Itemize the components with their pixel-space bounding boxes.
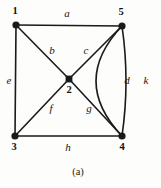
edge-label-a: a xyxy=(64,8,70,19)
vertex-label-1: 1 xyxy=(12,6,17,17)
graph-diagram xyxy=(0,0,161,188)
figure-caption: (a) xyxy=(72,167,84,178)
edge-label-e: e xyxy=(7,75,12,86)
vertex-label-3: 3 xyxy=(11,142,16,153)
edge-a xyxy=(16,25,122,26)
vertex-5 xyxy=(118,22,125,29)
vertex-label-2: 2 xyxy=(66,85,71,96)
vertex-label-5: 5 xyxy=(118,7,123,18)
figure-container: abcefghdk 15234 (a) xyxy=(0,0,161,188)
edge-k xyxy=(96,26,122,136)
edge-label-g: g xyxy=(86,103,92,114)
edge-f xyxy=(15,79,69,136)
edge-label-d: d xyxy=(124,75,130,86)
vertex-1 xyxy=(12,21,19,28)
edge-label-c: c xyxy=(84,45,89,56)
edge-b xyxy=(16,25,69,79)
vertex-4 xyxy=(118,132,125,139)
edge-label-k: k xyxy=(144,75,149,86)
edge-label-h: h xyxy=(65,142,71,153)
edge-label-f: f xyxy=(49,103,52,114)
vertex-label-4: 4 xyxy=(119,142,124,153)
vertex-2 xyxy=(66,76,73,83)
edge-label-b: b xyxy=(49,45,55,56)
edge-e xyxy=(15,25,16,136)
vertex-3 xyxy=(11,132,18,139)
